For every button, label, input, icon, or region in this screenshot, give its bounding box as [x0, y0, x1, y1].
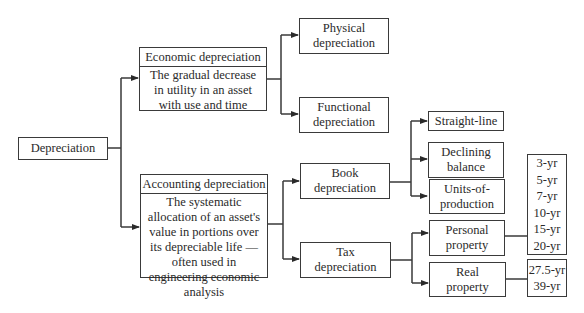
- node-label: Personal property: [440, 223, 494, 253]
- node-depreciation: Depreciation: [18, 137, 108, 160]
- recovery-period: 3-yr: [537, 155, 558, 172]
- node-title: Economic depreciation: [140, 48, 266, 67]
- real-recovery-periods: 27.5-yr 39-yr: [527, 259, 567, 297]
- recovery-period: 5-yr: [537, 172, 558, 189]
- node-tax-depreciation: Tax depreciation: [300, 242, 391, 278]
- node-declining-balance: Declining balance: [428, 142, 504, 178]
- personal-recovery-periods: 3-yr 5-yr 7-yr 10-yr 15-yr 20-yr: [527, 154, 567, 255]
- node-title: Accounting depreciation: [141, 175, 267, 194]
- node-label: Tax depreciation: [315, 245, 377, 275]
- node-functional-depreciation: Functional depreciation: [299, 97, 389, 133]
- node-label: Real property: [440, 265, 495, 295]
- recovery-period: 10-yr: [533, 205, 560, 222]
- node-real-property: Real property: [429, 262, 506, 297]
- node-label: Declining balance: [439, 145, 493, 175]
- node-description: The systematic allocation of an asset's …: [141, 194, 267, 301]
- node-description: The gradual decrease in utility in an as…: [140, 67, 266, 114]
- connector-root: [107, 78, 121, 227]
- connector-economic: [266, 35, 281, 114]
- node-book-depreciation: Book depreciation: [300, 163, 390, 199]
- recovery-period: 27.5-yr: [529, 262, 565, 279]
- connector-book: [389, 121, 411, 196]
- node-accounting-depreciation: Accounting depreciation The systematic a…: [140, 174, 268, 278]
- recovery-period: 39-yr: [533, 278, 560, 295]
- connector-tax: [390, 233, 412, 283]
- node-label: Physical depreciation: [313, 21, 375, 51]
- node-label: Units-of-production: [434, 182, 500, 212]
- recovery-period: 15-yr: [533, 221, 560, 238]
- node-units-of-production: Units-of-production: [429, 179, 505, 214]
- node-straight-line: Straight-line: [428, 111, 504, 131]
- node-label: Depreciation: [31, 141, 96, 156]
- node-label: Book depreciation: [314, 166, 376, 196]
- node-label: Straight-line: [435, 114, 498, 129]
- node-label: Functional depreciation: [313, 100, 375, 130]
- connector-accounting: [267, 181, 283, 259]
- node-personal-property: Personal property: [429, 220, 505, 256]
- recovery-period: 20-yr: [533, 238, 560, 255]
- node-physical-depreciation: Physical depreciation: [299, 18, 389, 54]
- recovery-period: 7-yr: [537, 188, 558, 205]
- node-economic-depreciation: Economic depreciation The gradual decrea…: [139, 47, 267, 111]
